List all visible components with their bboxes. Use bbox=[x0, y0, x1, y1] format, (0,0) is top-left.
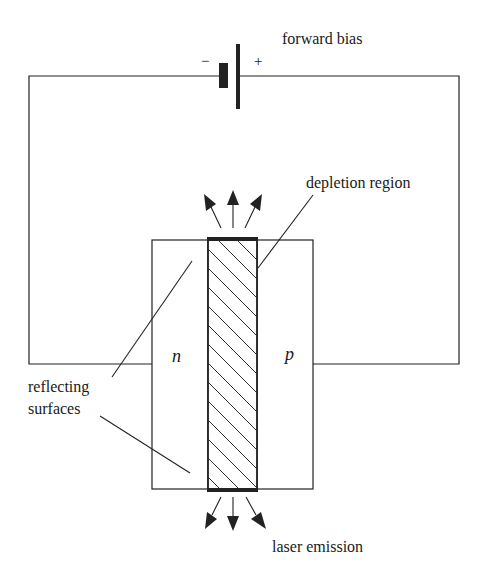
depletion-leader-line bbox=[258, 195, 313, 268]
reflecting-surface-bottom bbox=[207, 488, 258, 492]
battery-icon bbox=[219, 44, 240, 109]
n-region-label: n bbox=[172, 346, 181, 366]
reflecting-label-line2: surfaces bbox=[28, 400, 80, 417]
bottom-emission-arrows bbox=[205, 497, 266, 531]
reflecting-surface-top bbox=[207, 237, 258, 241]
p-region-label: p bbox=[283, 344, 294, 364]
reflecting-leader-line-lower bbox=[100, 416, 190, 473]
p-region bbox=[257, 240, 313, 489]
depletion-region-label: depletion region bbox=[306, 174, 410, 192]
plus-sign: + bbox=[254, 53, 262, 69]
laser-diode-diagram: − + forward bias n p bbox=[0, 0, 480, 578]
reflecting-label-line1: reflecting bbox=[28, 378, 89, 396]
forward-bias-label: forward bias bbox=[282, 30, 362, 47]
minus-sign: − bbox=[201, 53, 209, 69]
depletion-region bbox=[208, 192, 257, 526]
top-emission-arrows bbox=[204, 190, 262, 228]
laser-emission-label: laser emission bbox=[272, 538, 363, 555]
